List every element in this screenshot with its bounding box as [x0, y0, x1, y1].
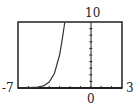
- origin-label: 0: [87, 93, 95, 105]
- x-max-label: 3: [126, 82, 134, 94]
- viewing-window-frame: [18, 22, 122, 88]
- axis-ticks: [28, 29, 111, 88]
- x-min-label: -7: [2, 82, 14, 94]
- function-curve: [18, 22, 65, 88]
- y-max-label: 10: [85, 7, 100, 19]
- chart-plot: [0, 0, 138, 107]
